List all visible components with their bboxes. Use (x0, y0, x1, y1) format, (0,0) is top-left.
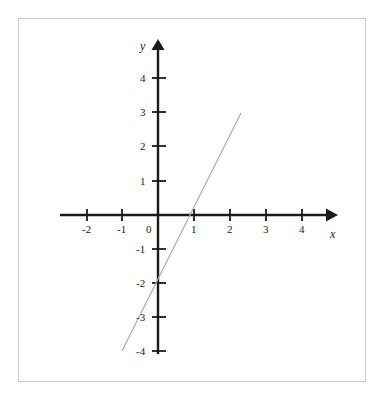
x-tick-label--2: -2 (82, 224, 91, 235)
y-tick-label--4: -4 (136, 346, 145, 357)
x-axis-arrow-icon (326, 209, 338, 222)
y-tick-label-4: 4 (140, 73, 146, 84)
x-tick-label-1: 1 (191, 224, 197, 235)
y-tick-label--3: -3 (136, 312, 145, 323)
graph-figure: -2 -1 0 1 2 3 4 4 3 2 1 -1 -2 -3 -4 x y (0, 0, 385, 398)
x-axis-label: x (330, 228, 335, 240)
x-tick-label-2: 2 (227, 224, 233, 235)
y-tick-label-1: 1 (140, 176, 146, 187)
x-tick-label-4: 4 (299, 224, 305, 235)
y-tick-label-2: 2 (140, 141, 146, 152)
y-axis-label: y (140, 40, 145, 52)
x-tick-label-3: 3 (263, 224, 269, 235)
y-tick-label-3: 3 (140, 107, 146, 118)
x-tick-label-0: 0 (146, 224, 152, 235)
y-tick-label--2: -2 (136, 278, 145, 289)
y-tick-label--1: -1 (136, 244, 145, 255)
x-tick-label--1: -1 (117, 224, 126, 235)
coordinate-plane (0, 0, 385, 398)
y-axis-arrow-icon (152, 39, 165, 50)
